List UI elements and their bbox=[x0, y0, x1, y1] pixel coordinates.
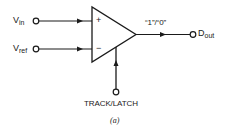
vref-label: Vref bbox=[13, 44, 27, 54]
track-latch-arrow-icon bbox=[114, 60, 119, 66]
dout-label-subscript: out bbox=[205, 32, 215, 39]
minus-sign: − bbox=[96, 44, 101, 53]
dout-terminal bbox=[190, 32, 196, 38]
output-logic-label: “1”/“0” bbox=[145, 19, 166, 27]
vref-terminal bbox=[33, 46, 39, 52]
vin-arrow-icon bbox=[77, 19, 83, 24]
figure-caption: (a) bbox=[110, 117, 119, 125]
dout-label: Dout bbox=[198, 29, 214, 39]
vin-label: Vin bbox=[13, 16, 24, 26]
comparator-diagram: Vin Vref + − “1”/“0” Dout TRACK/LATCH (a… bbox=[0, 0, 227, 136]
track-latch-terminal bbox=[113, 89, 119, 95]
vin-terminal bbox=[33, 18, 39, 24]
track-latch-label: TRACK/LATCH bbox=[84, 100, 138, 108]
vref-arrow-icon bbox=[77, 47, 83, 52]
output-arrow-icon bbox=[160, 32, 166, 37]
plus-sign: + bbox=[96, 16, 101, 25]
vin-label-subscript: in bbox=[19, 19, 24, 26]
vref-label-subscript: ref bbox=[19, 47, 27, 54]
